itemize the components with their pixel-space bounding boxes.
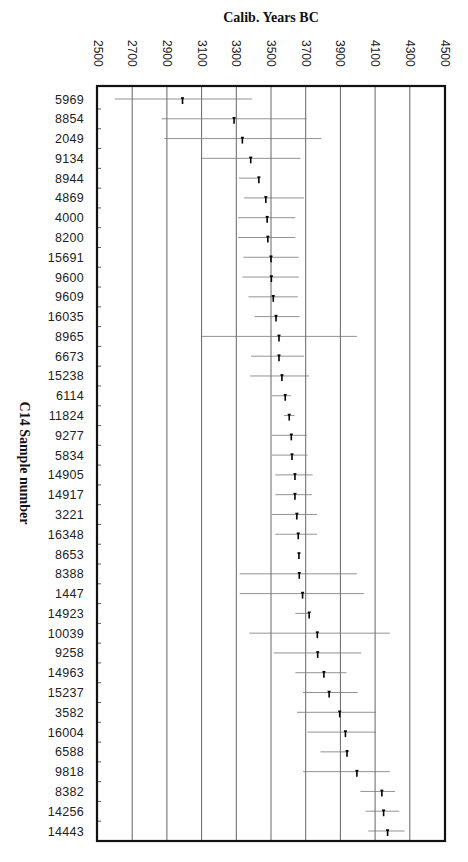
sample-row: 8388 bbox=[55, 567, 357, 584]
sample-label: 8388 bbox=[55, 567, 84, 581]
sample-label: 9258 bbox=[55, 646, 84, 660]
sample-label: 3221 bbox=[55, 508, 84, 522]
sample-label: 15237 bbox=[48, 686, 84, 700]
sample-label: 14443 bbox=[48, 825, 84, 839]
sample-row: 8382 bbox=[55, 785, 395, 802]
sample-label: 16004 bbox=[48, 726, 84, 740]
sample-row: 9609 bbox=[55, 290, 298, 307]
x-tick-label: 3300 bbox=[229, 40, 243, 67]
sample-rows: 5969885420499134894448694000820015691960… bbox=[48, 93, 405, 842]
sample-row: 15238 bbox=[48, 369, 309, 386]
sample-label: 15238 bbox=[48, 369, 84, 383]
sample-label: 8653 bbox=[55, 548, 84, 562]
sample-row: 3221 bbox=[55, 508, 317, 525]
sample-row: 6114 bbox=[56, 389, 291, 406]
sample-row: 14963 bbox=[48, 666, 347, 683]
sample-label: 8382 bbox=[55, 785, 84, 799]
vertical-gridlines bbox=[132, 86, 410, 841]
sample-row: 10039 bbox=[48, 627, 390, 644]
y-axis-label: C14 Sample number bbox=[17, 402, 32, 525]
sample-row: 8653 bbox=[55, 548, 300, 565]
sample-row: 15237 bbox=[48, 686, 358, 703]
sample-row: 8200 bbox=[55, 231, 295, 248]
chart-title: Calib. Years BC bbox=[223, 10, 319, 25]
sample-row: 2049 bbox=[55, 132, 321, 149]
sample-label: 16035 bbox=[48, 310, 84, 324]
sample-label: 9600 bbox=[55, 271, 84, 285]
sample-label: 6673 bbox=[55, 350, 84, 364]
sample-label: 15691 bbox=[48, 251, 84, 265]
sample-label: 5969 bbox=[55, 93, 84, 107]
x-tick-label: 4500 bbox=[438, 40, 452, 67]
x-axis-tick-labels: 2500270029003100330035003700390041004300… bbox=[91, 40, 452, 67]
sample-row: 5969 bbox=[55, 93, 252, 110]
range-chart: Calib. Years BC 250027002900310033003500… bbox=[0, 0, 468, 862]
sample-row: 3582 bbox=[55, 706, 376, 723]
sample-row: 4869 bbox=[55, 191, 304, 208]
sample-row: 6673 bbox=[55, 350, 304, 367]
x-tick-label: 4100 bbox=[368, 40, 382, 67]
sample-label: 8200 bbox=[55, 231, 84, 245]
x-tick-label: 2700 bbox=[125, 40, 139, 67]
sample-label: 5834 bbox=[55, 449, 84, 463]
sample-label: 9609 bbox=[55, 290, 84, 304]
sample-label: 9277 bbox=[55, 429, 84, 443]
sample-row: 4000 bbox=[55, 211, 295, 228]
x-tick-label: 3700 bbox=[299, 40, 313, 67]
sample-label: 14923 bbox=[48, 607, 84, 621]
sample-row: 16035 bbox=[48, 310, 300, 327]
sample-label: 3582 bbox=[55, 706, 84, 720]
sample-label: 8944 bbox=[55, 172, 84, 186]
sample-row: 9277 bbox=[55, 429, 307, 446]
sample-label: 14917 bbox=[48, 488, 84, 502]
sample-row: 8854 bbox=[55, 112, 307, 129]
sample-label: 10039 bbox=[48, 627, 84, 641]
sample-row: 5834 bbox=[55, 449, 307, 466]
sample-label: 16348 bbox=[48, 528, 84, 542]
sample-row: 1447 bbox=[55, 587, 364, 604]
sample-label: 14963 bbox=[48, 666, 84, 680]
sample-row: 14256 bbox=[48, 805, 400, 822]
sample-row: 11824 bbox=[49, 409, 295, 426]
sample-row: 16348 bbox=[48, 528, 317, 545]
x-tick-label: 4300 bbox=[403, 40, 417, 67]
sample-row: 9134 bbox=[55, 152, 301, 169]
sample-label: 11824 bbox=[49, 409, 84, 423]
x-tick-label: 2500 bbox=[91, 40, 105, 67]
x-tick-label: 3100 bbox=[195, 40, 209, 67]
sample-row: 9818 bbox=[55, 765, 390, 782]
x-tick-label: 3500 bbox=[264, 40, 278, 67]
sample-label: 1447 bbox=[55, 587, 84, 601]
sample-row: 9258 bbox=[55, 646, 361, 663]
sample-label: 2049 bbox=[55, 132, 84, 146]
x-tick-label: 3900 bbox=[333, 40, 347, 67]
sample-label: 6588 bbox=[55, 745, 84, 759]
x-tick-label: 2900 bbox=[160, 40, 174, 67]
sample-label: 8854 bbox=[55, 112, 84, 126]
sample-label: 6114 bbox=[56, 389, 84, 403]
sample-label: 4000 bbox=[55, 211, 84, 225]
sample-row: 14905 bbox=[48, 468, 313, 485]
sample-row: 8944 bbox=[55, 172, 260, 189]
sample-row: 14443 bbox=[48, 825, 405, 842]
sample-label: 4869 bbox=[55, 191, 84, 205]
sample-row: 9600 bbox=[55, 271, 299, 288]
sample-label: 9134 bbox=[55, 152, 84, 166]
sample-row: 8965 bbox=[55, 330, 357, 347]
sample-label: 9818 bbox=[55, 765, 84, 779]
sample-row: 14917 bbox=[48, 488, 312, 505]
sample-row: 15691 bbox=[48, 251, 299, 268]
sample-label: 14905 bbox=[48, 468, 84, 482]
sample-label: 8965 bbox=[55, 330, 84, 344]
sample-label: 14256 bbox=[48, 805, 84, 819]
